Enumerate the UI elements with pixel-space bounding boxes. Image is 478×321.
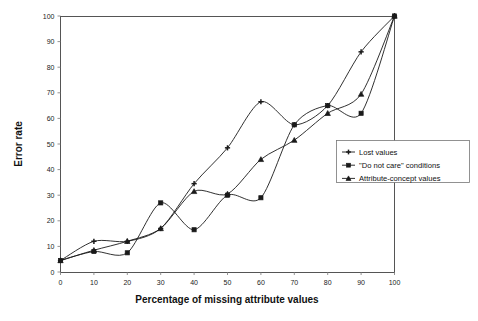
x-tick-label: 80 <box>324 279 332 286</box>
x-tick-label: 10 <box>90 279 98 286</box>
line-chart: 0102030405060708090100 01020304050607080… <box>0 0 478 321</box>
y-tick-label: 10 <box>47 243 55 250</box>
chart-legend: Lost values"Do not care" conditionsAttri… <box>337 141 470 184</box>
x-tick-label: 0 <box>59 279 63 286</box>
y-tick-label: 60 <box>47 115 55 122</box>
square-marker <box>125 251 129 255</box>
x-tick-label: 30 <box>157 279 165 286</box>
y-tick-label: 50 <box>47 141 55 148</box>
y-tick-label: 90 <box>47 38 55 45</box>
y-tick-label: 20 <box>47 217 55 224</box>
x-tick-label: 60 <box>257 279 265 286</box>
x-tick-label: 70 <box>290 279 298 286</box>
square-marker <box>159 201 163 205</box>
y-axis-title: Error rate <box>13 121 24 167</box>
y-tick-label: 30 <box>47 192 55 199</box>
y-tick-label: 40 <box>47 166 55 173</box>
y-tick-label: 0 <box>51 269 55 276</box>
x-axis-title: Percentage of missing attribute values <box>135 294 319 305</box>
x-tick-label: 20 <box>123 279 131 286</box>
square-marker <box>192 228 196 232</box>
chart-figure: 0102030405060708090100 01020304050607080… <box>0 0 478 321</box>
legend-label-1: "Do not care" conditions <box>359 161 440 170</box>
legend-label-2: Attribute-concept values <box>359 174 441 183</box>
x-tick-label: 50 <box>224 279 232 286</box>
square-marker <box>259 196 263 200</box>
y-tick-label: 80 <box>47 64 55 71</box>
square-marker <box>359 111 363 115</box>
legend-label-0: Lost values <box>359 148 398 157</box>
square-marker <box>326 104 330 108</box>
square-marker <box>292 123 296 127</box>
y-tick-label: 70 <box>47 89 55 96</box>
x-tick-label: 40 <box>190 279 198 286</box>
x-tick-label: 90 <box>357 279 365 286</box>
x-tick-label: 100 <box>389 279 401 286</box>
square-marker <box>347 163 351 167</box>
y-tick-label: 100 <box>43 13 55 20</box>
